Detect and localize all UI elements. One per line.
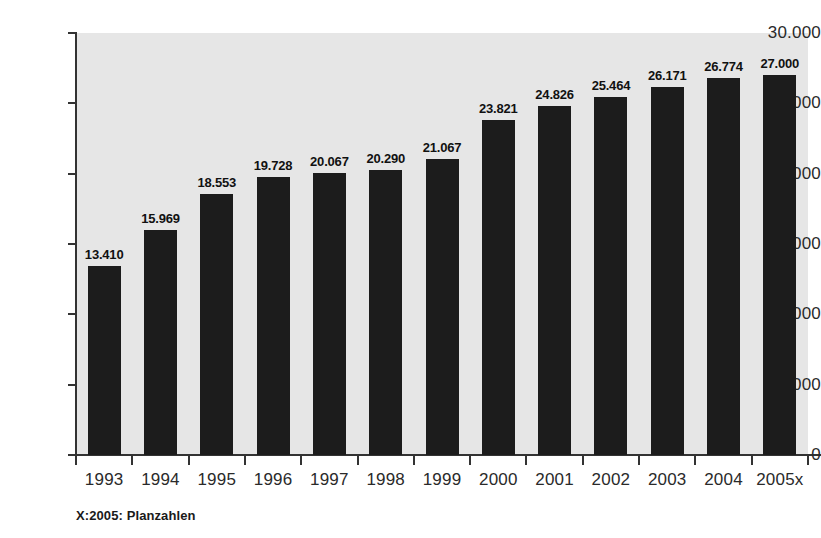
x-axis-tick-mark	[188, 456, 190, 465]
bar	[594, 97, 627, 455]
bar	[651, 87, 684, 455]
bar	[88, 266, 121, 455]
bar-value-label: 18.553	[187, 176, 247, 190]
x-axis-tick-label: 1994	[128, 470, 192, 489]
bar-value-label: 26.774	[694, 60, 754, 74]
bar-chart-figure: 05.00010.00015.00020.00025.00030.000 13.…	[0, 0, 821, 538]
bar	[426, 159, 459, 455]
y-axis-tick-label: 30.000	[755, 24, 821, 41]
bar-value-label: 20.067	[299, 155, 359, 169]
bar	[482, 120, 515, 455]
bar	[200, 194, 233, 455]
x-axis-tick-mark	[300, 456, 302, 465]
x-axis-tick-label: 1997	[297, 470, 361, 489]
x-axis-tick-mark	[638, 456, 640, 465]
y-axis-tick-mark	[68, 32, 76, 34]
x-axis-tick-mark	[751, 456, 753, 465]
x-axis-tick-mark	[357, 456, 359, 465]
x-axis-tick-label: 1996	[241, 470, 305, 489]
bar-value-label: 27.000	[750, 57, 810, 71]
x-axis-tick-mark	[75, 456, 77, 465]
x-axis-tick-label: 1993	[72, 470, 136, 489]
bar-value-label: 21.067	[412, 141, 472, 155]
y-axis-tick-mark	[68, 313, 76, 315]
x-axis-tick-mark	[694, 456, 696, 465]
x-axis-tick-mark	[807, 456, 809, 465]
bar	[144, 230, 177, 455]
bar-value-label: 25.464	[581, 79, 641, 93]
bar-value-label: 23.821	[468, 102, 528, 116]
y-axis-tick-mark	[68, 243, 76, 245]
x-axis-tick-label: 1998	[354, 470, 418, 489]
bar	[763, 75, 796, 455]
x-axis-tick-label: 2000	[466, 470, 530, 489]
x-axis-tick-label: 2001	[523, 470, 587, 489]
x-axis-tick-mark	[131, 456, 133, 465]
bar	[538, 106, 571, 455]
bar	[257, 177, 290, 455]
bar-value-label: 20.290	[356, 152, 416, 166]
x-axis-tick-mark	[244, 456, 246, 465]
bar-value-label: 15.969	[130, 212, 190, 226]
bar-value-label: 19.728	[243, 159, 303, 173]
x-axis-tick-label: 2002	[579, 470, 643, 489]
bar	[369, 170, 402, 455]
chart-footnote: X:2005: Planzahlen	[76, 508, 196, 523]
x-axis-tick-mark	[582, 456, 584, 465]
bar-value-label: 26.171	[637, 69, 697, 83]
x-axis-tick-mark	[525, 456, 527, 465]
y-axis-tick-mark	[68, 384, 76, 386]
bar-value-label: 24.826	[525, 88, 585, 102]
bar	[313, 173, 346, 455]
x-axis-tick-mark	[413, 456, 415, 465]
y-axis-tick-mark	[68, 173, 76, 175]
x-axis-tick-label: 2005x	[748, 470, 812, 489]
x-axis-tick-label: 1999	[410, 470, 474, 489]
x-axis-tick-label: 2004	[692, 470, 756, 489]
x-axis-tick-label: 2003	[635, 470, 699, 489]
bar	[707, 78, 740, 455]
bar-value-label: 13.410	[74, 248, 134, 262]
x-axis-tick-label: 1995	[185, 470, 249, 489]
y-axis-tick-mark	[68, 102, 76, 104]
x-axis-tick-mark	[469, 456, 471, 465]
